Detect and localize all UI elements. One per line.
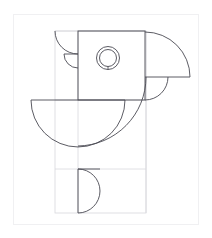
artboard xyxy=(0,0,212,238)
beak-upper-arc-shape xyxy=(145,32,190,77)
crest-upper-arc-shape xyxy=(55,31,78,54)
eye-inner-circle-shape xyxy=(100,50,117,67)
guide-body-rectangle xyxy=(55,31,146,213)
wing-large-arc-shape xyxy=(78,77,146,146)
tail-semicircle-shape xyxy=(78,169,100,213)
beak-lower-arc-shape xyxy=(145,77,168,100)
outer-frame-border xyxy=(14,15,199,225)
parrot-line-drawing-canvas xyxy=(0,0,212,238)
crest-lower-arc-shape xyxy=(64,54,78,68)
construction-guides xyxy=(55,31,146,213)
